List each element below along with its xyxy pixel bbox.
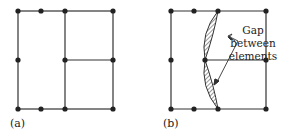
annotation-line-2: elements: [222, 50, 281, 63]
mesh-diagram: [0, 0, 281, 137]
panel-a-label: (a): [10, 117, 25, 130]
gap-annotation: Gap between elements: [222, 24, 281, 63]
panel-b-label: (b): [163, 117, 179, 130]
annotation-line-1: Gap between: [222, 24, 281, 50]
